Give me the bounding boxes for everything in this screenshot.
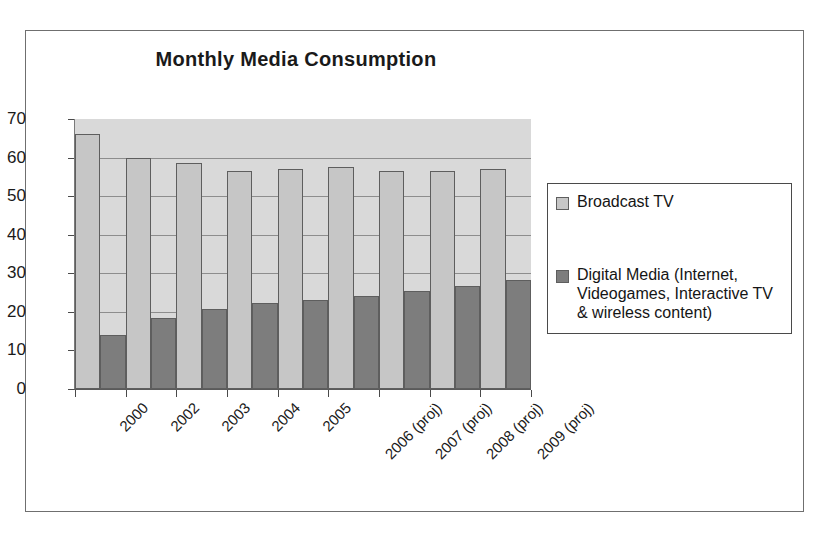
y-tick-70 [68, 119, 74, 120]
chart-screenshot: Monthly Media Consumption 01020304050607… [0, 0, 830, 540]
bar-group [430, 119, 481, 389]
x-tick [126, 390, 127, 397]
x-tick [328, 390, 329, 397]
bar [455, 286, 480, 389]
bar [354, 296, 379, 389]
bar-group [75, 119, 126, 389]
x-tick [278, 390, 279, 397]
bar [100, 335, 125, 389]
x-tick-label: 2004 [268, 399, 304, 435]
bar [328, 167, 353, 389]
bar [303, 300, 328, 389]
bar [379, 171, 404, 389]
y-tick-label-60: 60 [0, 148, 26, 168]
bar-group [176, 119, 227, 389]
chart-title: Monthly Media Consumption [26, 48, 566, 71]
bar [227, 171, 252, 389]
bar-group [227, 119, 278, 389]
bar [404, 291, 429, 389]
bar-group [328, 119, 379, 389]
x-tick [75, 390, 76, 397]
bar [252, 303, 277, 389]
bar [278, 169, 303, 389]
y-tick-label-70: 70 [0, 109, 26, 129]
x-tick-label: 2005 [319, 399, 355, 435]
y-tick-60 [68, 158, 74, 159]
y-tick-label-40: 40 [0, 225, 26, 245]
x-tick-label: 2000 [116, 399, 152, 435]
bar-group [278, 119, 329, 389]
y-tick-40 [68, 235, 74, 236]
bar [151, 318, 176, 389]
legend-swatch-icon-broadcast-tv [556, 197, 569, 210]
bar [480, 169, 505, 389]
y-tick-50 [68, 196, 74, 197]
x-tick [430, 390, 431, 397]
x-tick [480, 390, 481, 397]
y-tick-labels: 010203040506070 [0, 119, 26, 390]
bar-group [480, 119, 531, 389]
x-tick-label: 2003 [218, 399, 254, 435]
x-tick [531, 390, 532, 397]
bar [506, 280, 531, 389]
y-tick-20 [68, 312, 74, 313]
x-tick [379, 390, 380, 397]
legend-label-digital-media: Digital Media (Internet, Videogames, Int… [577, 266, 783, 323]
y-tick-10 [68, 350, 74, 351]
y-tick-label-0: 0 [0, 379, 26, 399]
y-tick-0 [68, 389, 74, 390]
x-tick [176, 390, 177, 397]
x-axis-line [74, 389, 531, 390]
bar [202, 309, 227, 389]
legend-item-digital-media: Digital Media (Internet, Videogames, Int… [556, 266, 783, 323]
legend-label-broadcast-tv: Broadcast TV [577, 193, 674, 212]
chart-frame: Monthly Media Consumption 01020304050607… [25, 30, 804, 512]
chart-legend: Broadcast TV Digital Media (Internet, Vi… [547, 183, 792, 334]
bar-group [379, 119, 430, 389]
y-tick-label-50: 50 [0, 186, 26, 206]
bars-layer [75, 119, 531, 389]
legend-item-broadcast-tv: Broadcast TV [556, 193, 783, 212]
y-tick-label-20: 20 [0, 302, 26, 322]
y-tick-label-10: 10 [0, 340, 26, 360]
bar-group [126, 119, 177, 389]
bar [430, 171, 455, 389]
legend-swatch-icon-digital-media [556, 270, 569, 283]
y-tick-label-30: 30 [0, 263, 26, 283]
x-tick [227, 390, 228, 397]
bar [126, 158, 151, 389]
bar [176, 163, 201, 389]
x-tick-label: 2002 [167, 399, 203, 435]
y-tick-30 [68, 273, 74, 274]
bar [75, 134, 100, 389]
